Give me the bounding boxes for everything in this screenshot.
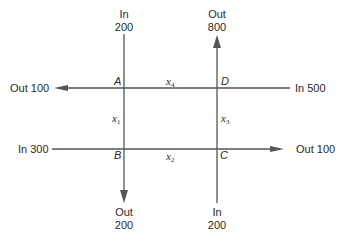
node-label-d: D bbox=[221, 75, 229, 87]
edge-label-x3: x3 bbox=[220, 112, 230, 126]
arrow-right-c-out bbox=[270, 146, 284, 152]
node-label-b: B bbox=[114, 149, 121, 161]
arrow-down-b-out bbox=[120, 190, 128, 203]
flow-label-d-top-value: 800 bbox=[208, 21, 226, 33]
edge-label-x1: x1 bbox=[111, 112, 121, 126]
traffic-flow-diagram: A B C D x1 x2 x3 x4 In 200 Out 800 Out 1… bbox=[0, 0, 342, 246]
flow-label-c-bottom-direction: In bbox=[212, 206, 221, 218]
arrow-left-a-out bbox=[54, 85, 68, 91]
flow-label-c-right: Out 100 bbox=[296, 143, 335, 155]
flow-label-b-bottom-direction: Out bbox=[115, 206, 133, 218]
arrow-up-d-out bbox=[213, 35, 221, 48]
flow-label-c-bottom-value: 200 bbox=[208, 219, 226, 231]
flow-label-b-bottom-value: 200 bbox=[115, 219, 133, 231]
edge-label-x4: x4 bbox=[165, 75, 175, 89]
flow-label-a-top-direction: In bbox=[119, 8, 128, 20]
flow-label-a-top-value: 200 bbox=[115, 21, 133, 33]
edge-label-x2: x2 bbox=[165, 150, 175, 164]
flow-label-a-left: Out 100 bbox=[10, 82, 49, 94]
flow-label-d-top-direction: Out bbox=[208, 8, 226, 20]
flow-label-d-right: In 500 bbox=[295, 82, 326, 94]
flow-label-b-left: In 300 bbox=[18, 143, 49, 155]
node-label-c: C bbox=[220, 149, 228, 161]
node-label-a: A bbox=[113, 75, 121, 87]
